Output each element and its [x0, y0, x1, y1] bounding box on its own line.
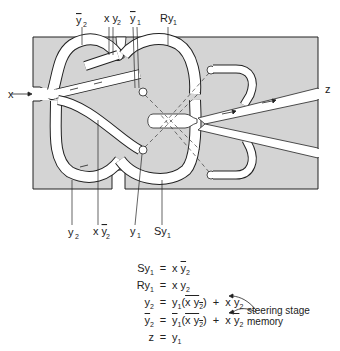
- central-chamber: [148, 114, 197, 128]
- label-y1-bar: y: [130, 12, 136, 24]
- label-y2-bar: y: [76, 14, 82, 26]
- label-ry1: Ry: [160, 12, 174, 24]
- control-port-lower: [139, 146, 147, 154]
- note-line-1: steering stage: [247, 305, 310, 316]
- equation-sy1: Sy1=x y2: [128, 262, 243, 279]
- equation-z: z=y1: [128, 331, 243, 348]
- steering-stage-memory-note: steering stage memory: [247, 305, 310, 327]
- equation-ry1: Ry1=x y2: [128, 279, 243, 296]
- svg-text:1: 1: [167, 232, 171, 239]
- boolean-equations: Sy1=x y2 Ry1=x y2 y2=y1(x y2) + x y2 y2=…: [128, 262, 243, 348]
- svg-text:2: 2: [106, 233, 110, 240]
- control-port-upper: [139, 88, 147, 96]
- equation-y2-bar: y2=y1(x y2) + x y2: [128, 314, 243, 331]
- output-label-z: z: [325, 83, 331, 95]
- svg-text:2: 2: [75, 233, 79, 240]
- equation-y2: y2=y1(x y2) + x y2: [128, 296, 243, 313]
- input-label-x: x: [8, 88, 14, 100]
- svg-text:2: 2: [83, 21, 87, 28]
- svg-text:1: 1: [137, 19, 141, 26]
- label-sy1: Sy: [154, 225, 167, 237]
- label-y1: y: [130, 225, 136, 237]
- label-y2: y: [68, 226, 74, 238]
- svg-text:1: 1: [173, 19, 177, 26]
- svg-text:1: 1: [137, 232, 141, 239]
- substrate-block: [33, 37, 318, 189]
- svg-text:2: 2: [117, 19, 121, 26]
- note-line-2: memory: [247, 316, 310, 327]
